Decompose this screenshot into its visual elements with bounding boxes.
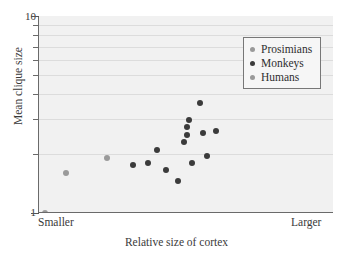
data-point-monkeys [175, 178, 181, 184]
y-axis-major-tick [31, 16, 39, 17]
legend-label: Monkeys [261, 57, 304, 69]
legend-item-monkeys[interactable]: Monkeys [250, 56, 312, 70]
y-axis-major-tick [31, 213, 39, 214]
data-point-monkeys [200, 130, 206, 136]
y-axis-tick [33, 35, 39, 36]
data-point-monkeys [130, 162, 136, 168]
y-axis-tick [33, 25, 39, 26]
y-axis-tick [33, 75, 39, 76]
legend-item-humans[interactable]: Humans [250, 70, 312, 84]
y-axis-title: Mean clique size [12, 16, 24, 156]
y-axis-tick [33, 60, 39, 61]
x-axis-min-label: Smaller [38, 216, 74, 228]
gridline [39, 94, 333, 95]
x-axis-title: Relative size of cortex [0, 236, 353, 248]
data-point-prosimians [104, 155, 110, 161]
gridline [39, 35, 333, 36]
data-point-prosimians [63, 170, 69, 176]
legend-item-prosimians[interactable]: Prosimians [250, 42, 312, 56]
data-point-monkeys [197, 100, 203, 106]
gridline [39, 154, 333, 155]
data-point-monkeys [145, 160, 151, 166]
legend-label: Humans [261, 71, 299, 83]
legend-marker-icon [250, 61, 255, 66]
y-axis-tick [33, 154, 39, 155]
legend-marker-icon [250, 47, 255, 52]
legend: ProsimiansMonkeysHumans [243, 37, 321, 89]
data-point-monkeys [154, 147, 160, 153]
data-point-monkeys [189, 160, 195, 166]
legend-marker-icon [250, 75, 255, 80]
legend-label: Prosimians [261, 43, 312, 55]
data-point-monkeys [204, 153, 210, 159]
data-point-monkeys [181, 139, 187, 145]
data-point-monkeys [186, 117, 192, 123]
data-point-monkeys [213, 128, 219, 134]
y-axis-tick [33, 94, 39, 95]
data-point-monkeys [163, 167, 169, 173]
y-axis-tick [33, 119, 39, 120]
gridline [39, 25, 333, 26]
y-axis-tick [33, 47, 39, 48]
data-point-monkeys [184, 124, 190, 130]
data-point-prosimians [42, 210, 48, 213]
x-axis-max-label: Larger [291, 216, 321, 228]
data-point-monkeys [184, 132, 190, 138]
scatter-plot-figure: Mean clique size 10 1 Smaller Larger Rel… [0, 0, 353, 256]
